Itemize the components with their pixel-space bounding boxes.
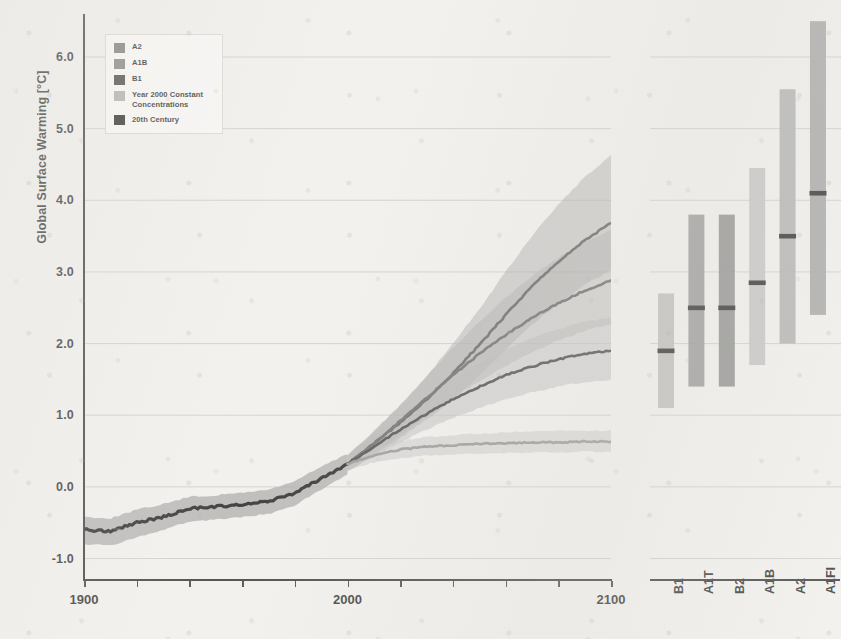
y-tick-1n0: 1.0	[56, 408, 74, 422]
x-tick-mark	[611, 581, 613, 587]
x-tick-mark	[348, 581, 350, 587]
y-tick-6n0: 6.0	[56, 50, 74, 64]
x-tick-mark	[295, 581, 297, 587]
legend-item-label: B1	[132, 74, 142, 84]
x-tick-mark	[189, 581, 191, 587]
scenario-bar-B2	[718, 215, 735, 387]
legend-item-label: A1B	[132, 58, 147, 68]
scenario-bar-A1T	[688, 215, 705, 387]
legend-swatch-icon	[114, 91, 125, 101]
legend-swatch-icon	[114, 75, 125, 85]
y-tick-3n0: 3.0	[56, 265, 74, 279]
y-tick-n1-0: -1.0	[52, 552, 74, 566]
legend: A2A1BB1Year 2000 Constant Concentrations…	[105, 34, 223, 134]
y-tick-4n0: 4.0	[56, 193, 74, 207]
y-axis-tick-labels: -1.00.01.02.03.04.05.06.0	[26, 0, 74, 639]
legend-swatch-icon	[114, 115, 125, 125]
scenario-bar-A1FI	[809, 21, 826, 315]
scenario-range-bar-panel	[650, 14, 841, 580]
scenario-bar-A2	[779, 89, 796, 343]
x-tick-label-2100: 2100	[597, 592, 626, 607]
x-tick-mark	[453, 581, 455, 587]
x-tick-mark	[84, 581, 86, 587]
legend-item-a1b[interactable]: A1B	[114, 58, 215, 69]
scenario-bars-svg	[650, 14, 841, 580]
x-tick-mark	[558, 581, 560, 587]
legend-item-label: A2	[132, 42, 142, 52]
legend-swatch-icon	[114, 43, 125, 53]
y-tick-0n0: 0.0	[56, 480, 74, 494]
x-tick-mark	[137, 581, 139, 587]
legend-item-label: 20th Century	[132, 115, 179, 125]
bar-label-A1T: A1T	[702, 570, 716, 594]
y-axis-line	[83, 14, 85, 581]
y-tick-2n0: 2.0	[56, 337, 74, 351]
bar-panel-axis-line	[650, 579, 840, 581]
x-tick-label-1900: 1900	[70, 592, 99, 607]
scenario-bar-B1	[658, 293, 675, 408]
x-tick-mark	[506, 581, 508, 587]
y-tick-5n0: 5.0	[56, 122, 74, 136]
x-tick-mark	[400, 581, 402, 587]
legend-item-b1[interactable]: B1	[114, 74, 215, 85]
legend-item-a2[interactable]: A2	[114, 42, 215, 53]
legend-item-label: Year 2000 Constant Concentrations	[132, 90, 203, 109]
legend-swatch-icon	[114, 59, 125, 69]
x-tick-label-2000: 2000	[333, 592, 362, 607]
x-tick-mark	[242, 581, 244, 587]
legend-item-20th-century[interactable]: 20th Century	[114, 115, 215, 126]
scenario-bar-A1B	[749, 168, 766, 365]
bar-label-A1B: A1B	[763, 569, 777, 594]
legend-item-year-2000-constant[interactable]: Year 2000 Constant Concentrations	[114, 90, 215, 109]
